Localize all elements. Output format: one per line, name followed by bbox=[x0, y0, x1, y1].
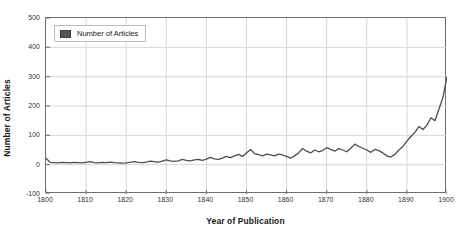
x-tick-1870: 1870 bbox=[306, 196, 346, 203]
x-tick-1860: 1860 bbox=[266, 196, 306, 203]
x-tick-1890: 1890 bbox=[386, 196, 426, 203]
x-axis-title: Year of Publication bbox=[45, 216, 446, 226]
legend-label-number-of-articles: Number of Articles bbox=[77, 29, 138, 38]
plot-area: Number of Articles bbox=[45, 17, 446, 193]
x-tick-1820: 1820 bbox=[105, 196, 145, 203]
gridlines bbox=[46, 18, 447, 194]
chart-svg bbox=[46, 18, 447, 194]
legend-swatch-number-of-articles bbox=[60, 30, 71, 38]
chart-figure: Number of Articles 5004003002001000-100 … bbox=[0, 0, 467, 236]
x-tick-1810: 1810 bbox=[65, 196, 105, 203]
x-tick-1830: 1830 bbox=[145, 196, 185, 203]
x-tick-1900: 1900 bbox=[426, 196, 466, 203]
x-tick-1850: 1850 bbox=[226, 196, 266, 203]
x-tick-1880: 1880 bbox=[346, 196, 386, 203]
legend: Number of Articles bbox=[54, 25, 146, 42]
x-tick-1800: 1800 bbox=[25, 196, 65, 203]
x-tick-1840: 1840 bbox=[185, 196, 225, 203]
